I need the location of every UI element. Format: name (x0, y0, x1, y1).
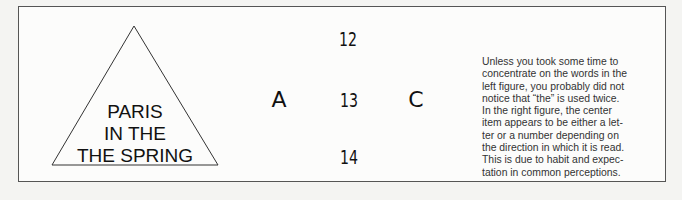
caption-line: left figure, you probably did not (482, 81, 662, 93)
caption-line: Unless you took some time to (482, 56, 662, 68)
caption-line: This is due to habit and expec- (482, 154, 662, 166)
caption-line: concentrate on the words in the (482, 68, 662, 80)
caption-line: ter or a number depending on (482, 130, 662, 142)
letter-a: A (271, 87, 286, 112)
triangle-line-1: PARIS (107, 101, 163, 122)
caption-line: tation in common perceptions. (482, 167, 662, 179)
triangle-line-3: THE SPRING (77, 145, 193, 166)
caption-line: item appears to be either a let- (482, 117, 662, 129)
letter-c: C (408, 87, 423, 112)
number-12: 12 (339, 27, 357, 51)
caption-line: notice that “the” is used twice. (482, 93, 662, 105)
caption-line: the direction in which it is read. (482, 142, 662, 154)
caption-text: Unless you took some time to concentrate… (482, 56, 662, 179)
ambiguous-13-b: 13 (340, 88, 358, 112)
number-14: 14 (340, 145, 358, 169)
triangle-line-2: IN THE (104, 123, 166, 144)
caption-line: In the right figure, the center (482, 105, 662, 117)
